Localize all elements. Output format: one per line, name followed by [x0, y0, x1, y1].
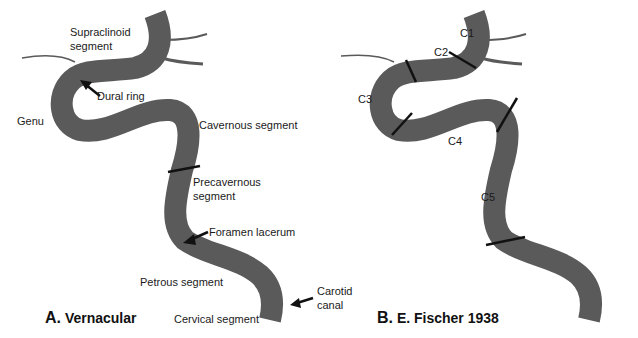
carotid-canal-arrow	[290, 298, 313, 308]
panel-b-title-text: E. Fischer 1938	[397, 310, 499, 326]
label-cervical-segment: Cervical segment	[174, 313, 259, 326]
label-c3: C3	[358, 93, 372, 106]
panel-b-letter: B.	[377, 309, 393, 326]
label-supraclinoid-segment: segment	[70, 40, 112, 53]
panel-b-title: B. E. Fischer 1938	[377, 309, 499, 327]
carotid-artery-diagram-b	[319, 0, 638, 338]
panel-b-fischer: C1 C2 C3 C4 C5 B. E. Fischer 1938	[319, 0, 638, 338]
panel-a-letter: A.	[45, 309, 61, 326]
label-dural-ring: Dural ring	[97, 90, 145, 103]
label-supraclinoid: Supraclinoid	[70, 26, 131, 39]
label-cavernous-segment: Cavernous segment	[199, 119, 297, 132]
label-petrous-segment: Petrous segment	[140, 276, 223, 289]
label-c4: C4	[448, 135, 462, 148]
label-foramen-lacerum: Foramen lacerum	[209, 226, 295, 239]
panel-a-vernacular: Supraclinoid segment Dural ring Genu Cav…	[0, 0, 319, 338]
label-genu: Genu	[17, 115, 44, 128]
label-c1: C1	[460, 27, 474, 40]
label-c5: C5	[481, 191, 495, 204]
panel-a-title: A. Vernacular	[45, 309, 137, 327]
panel-a-title-text: Vernacular	[65, 310, 137, 326]
label-c2: C2	[434, 46, 448, 59]
label-precavernous: Precavernous	[193, 176, 261, 189]
label-precavernous-segment: segment	[193, 190, 235, 203]
